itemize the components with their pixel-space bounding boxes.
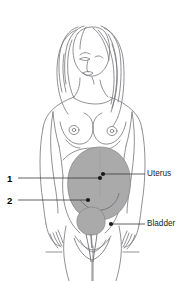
right-areola [107,127,117,136]
left-hand-finger-4 [58,230,63,243]
label-number-2: 2 [7,196,12,206]
nose-line [87,60,88,72]
neck-left [74,78,80,97]
torso-left-upper [53,112,59,146]
right-arm-outer [139,129,145,225]
label-uterus: Uterus [147,170,171,178]
right-hand-finger-3 [123,233,129,247]
left-eye [80,58,90,61]
label-1-leader-marker [98,176,102,180]
diagram-page: LONGITUDINAL SECTION [0,0,187,281]
torso-left-waist [59,146,63,176]
neck-right [100,80,108,97]
label-bladder: Bladder [147,220,175,228]
left-areola [69,126,79,135]
right-thigh-outer [116,226,121,281]
bladder-leader-marker [109,222,113,226]
hair-left-strand-1 [65,26,84,84]
right-nipple [110,129,114,132]
label-2-leader-marker [86,198,90,202]
left-breast-outline [60,113,93,144]
chin-shadow [92,77,94,84]
organs-group [68,147,131,281]
uterus-leader-marker [101,172,105,176]
label-number-1: 1 [7,174,12,184]
torso-right-upper [126,112,132,146]
shoulder-right [110,97,142,129]
clavicle-line [74,98,112,104]
hair-left-outline [57,30,76,114]
head-outline [73,27,110,76]
urethra-lumen [91,234,92,248]
bladder-shape [77,207,105,235]
right-breast-outline [93,113,126,144]
left-nipple [72,128,76,131]
shoulder-left [43,97,74,128]
anatomy-figure [0,0,187,281]
left-arm-outer [40,128,46,224]
left-arm-inner [51,112,58,213]
left-eyebrow [80,53,90,55]
right-eye [95,56,103,58]
left-thigh-outer [64,226,69,281]
right-hand-finger-4 [122,231,127,244]
left-hand-finger-3 [56,232,62,246]
hair-left-inner [59,27,78,92]
